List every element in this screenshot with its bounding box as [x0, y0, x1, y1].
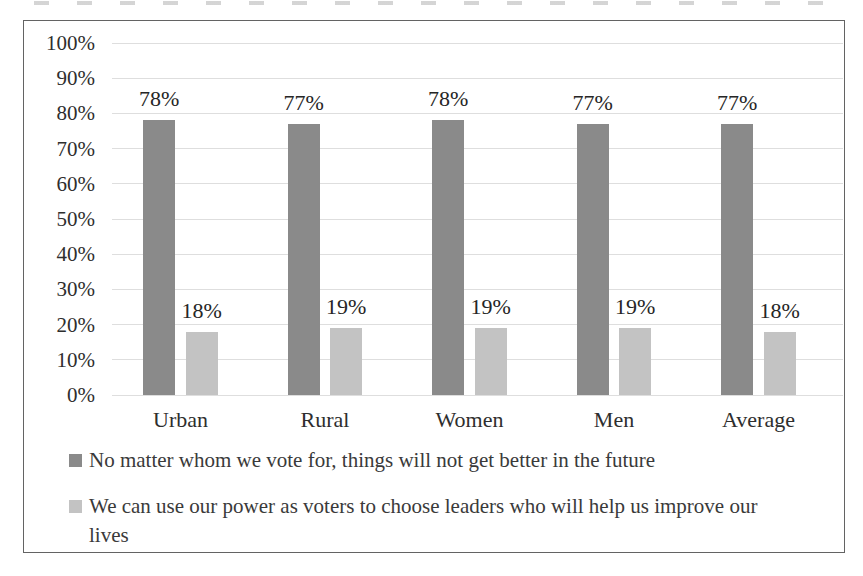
legend-item-series1: No matter whom we vote for, things will … — [69, 446, 655, 474]
y-axis-label-90%: 90% — [23, 65, 95, 91]
data-label-average-series2: 18% — [740, 299, 820, 323]
y-axis-label-30%: 30% — [23, 276, 95, 302]
y-axis-label-50%: 50% — [23, 206, 95, 232]
y-axis-label-100%: 100% — [23, 30, 95, 56]
data-label-urban-series1: 78% — [119, 87, 199, 111]
data-label-rural-series1: 77% — [264, 91, 344, 115]
bar-rural-series2 — [330, 328, 362, 395]
bar-men-series2 — [619, 328, 651, 395]
bar-women-series1 — [432, 120, 464, 395]
legend-swatch-series2-icon — [69, 500, 82, 513]
bar-average-series1 — [721, 124, 753, 395]
cropped-text-artifact — [34, 1, 834, 5]
bar-men-series1 — [577, 124, 609, 395]
bar-women-series2 — [475, 328, 507, 395]
y-axis-label-80%: 80% — [23, 100, 95, 126]
y-axis-label-20%: 20% — [23, 312, 95, 338]
data-label-women-series2: 19% — [451, 295, 531, 319]
gridline-90% — [112, 78, 843, 79]
legend-label-series1: No matter whom we vote for, things will … — [89, 446, 655, 474]
gridline-100% — [112, 43, 843, 44]
data-label-men-series2: 19% — [595, 295, 675, 319]
data-label-average-series1: 77% — [697, 91, 777, 115]
legend-item-series2: We can use our power as voters to choose… — [69, 492, 799, 550]
data-label-rural-series2: 19% — [306, 295, 386, 319]
x-axis-label-women: Women — [400, 406, 540, 434]
data-label-urban-series2: 18% — [162, 299, 242, 323]
data-label-women-series1: 78% — [408, 87, 488, 111]
x-axis-label-urban: Urban — [111, 406, 251, 434]
y-axis-label-40%: 40% — [23, 241, 95, 267]
bar-rural-series1 — [288, 124, 320, 395]
bar-urban-series1 — [143, 120, 175, 395]
x-axis-label-average: Average — [689, 406, 829, 434]
y-axis-label-60%: 60% — [23, 171, 95, 197]
legend-label-series2: We can use our power as voters to choose… — [89, 492, 799, 550]
y-axis-label-10%: 10% — [23, 347, 95, 373]
x-axis-label-men: Men — [544, 406, 684, 434]
legend-swatch-series1-icon — [69, 454, 82, 467]
y-axis-label-70%: 70% — [23, 136, 95, 162]
data-label-men-series1: 77% — [553, 91, 633, 115]
bar-average-series2 — [764, 332, 796, 395]
x-axis-label-rural: Rural — [255, 406, 395, 434]
scanned-chart-page: No matter whom we vote for, things will … — [0, 0, 863, 576]
y-axis-label-0%: 0% — [23, 382, 95, 408]
bar-urban-series2 — [186, 332, 218, 395]
